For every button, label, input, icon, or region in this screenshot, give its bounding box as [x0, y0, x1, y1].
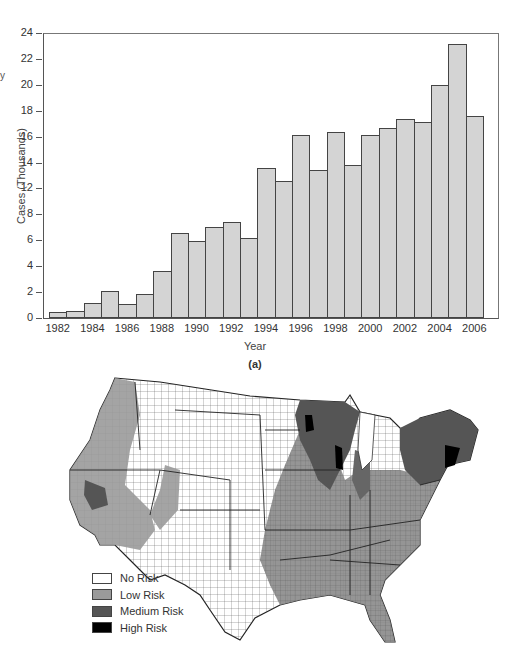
y-tick	[36, 163, 42, 164]
bar-1991	[205, 227, 223, 318]
bar-2000	[361, 135, 379, 318]
y-tick-label: 22	[3, 52, 33, 64]
bar-1995	[275, 181, 293, 318]
bar-1993	[240, 238, 258, 318]
us-risk-map: No Risk Low Risk Medium Risk High Risk	[0, 370, 513, 648]
bar-1994	[257, 168, 275, 318]
bar-1998	[327, 132, 345, 318]
us-map-graphic	[0, 370, 513, 648]
legend-swatch	[92, 606, 112, 617]
y-tick	[36, 137, 42, 138]
y-tick	[36, 59, 42, 60]
legend-item-no-risk: No Risk	[92, 570, 184, 587]
bar-1982	[49, 312, 67, 318]
y-tick	[36, 85, 42, 86]
legend-item-low-risk: Low Risk	[92, 587, 184, 604]
y-tick-label: 4	[3, 259, 33, 271]
bar-1989	[171, 233, 189, 319]
x-tick-label: 2006	[454, 322, 494, 334]
bar-1999	[344, 165, 362, 318]
bar-2003	[414, 122, 432, 318]
y-tick-label: 20	[3, 78, 33, 90]
legend-label: Medium Risk	[120, 605, 184, 617]
y-tick-label: 0	[3, 311, 33, 323]
panel-label: (a)	[235, 358, 275, 370]
bar-2001	[379, 128, 397, 318]
legend-label: High Risk	[120, 622, 167, 634]
y-tick	[36, 292, 42, 293]
bar-1997	[309, 170, 327, 318]
legend-swatch	[92, 622, 112, 633]
legend-item-medium-risk: Medium Risk	[92, 603, 184, 620]
bar-1986	[118, 304, 136, 318]
y-tick	[36, 33, 42, 34]
bar-1987	[136, 294, 154, 318]
y-tick-label: 6	[3, 233, 33, 245]
bar-2006	[466, 116, 484, 318]
y-tick	[36, 318, 42, 319]
legend-swatch	[92, 573, 112, 584]
bar-2002	[396, 119, 414, 319]
y-tick	[36, 111, 42, 112]
bar-1985	[101, 291, 119, 318]
y-tick	[36, 214, 42, 215]
y-tick	[36, 240, 42, 241]
bar-1988	[153, 271, 171, 319]
y-tick-label: 18	[3, 104, 33, 116]
bar-2005	[448, 44, 466, 318]
map-legend: No Risk Low Risk Medium Risk High Risk	[92, 570, 184, 636]
bar-2004	[431, 85, 449, 318]
bar-chart: 0246812141618202224 Cases (Thousands) 19…	[0, 0, 513, 360]
bar-1992	[223, 222, 241, 318]
x-axis-title: Year	[225, 340, 285, 352]
bars-container	[49, 33, 499, 318]
bar-1990	[188, 241, 206, 318]
y-tick-label: 2	[3, 285, 33, 297]
y-axis-title: Cases (Thousands)	[15, 121, 27, 231]
legend-label: Low Risk	[120, 589, 165, 601]
bar-1983	[66, 311, 84, 318]
bar-1984	[84, 303, 102, 318]
bar-1996	[292, 135, 310, 318]
legend-swatch	[92, 589, 112, 600]
region-high-risk-wisconsin	[335, 445, 343, 470]
legend-item-high-risk: High Risk	[92, 620, 184, 637]
legend-label: No Risk	[120, 572, 159, 584]
y-tick-label: 24	[3, 26, 33, 38]
y-tick	[36, 188, 42, 189]
y-tick	[36, 266, 42, 267]
region-medium-risk-northeast	[400, 410, 478, 485]
